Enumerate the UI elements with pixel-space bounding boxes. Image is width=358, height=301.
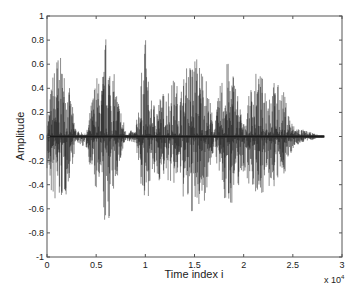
y-tick-label: 0: [39, 132, 44, 142]
y-tick-label: 0.6: [31, 59, 44, 69]
x-tick-label: 0.5: [90, 260, 103, 270]
x-tick-label: 1: [143, 260, 148, 270]
y-tick-label: -0.6: [28, 204, 44, 214]
y-tick-label: 0.4: [31, 83, 44, 93]
x-multiplier: x 104: [324, 274, 345, 285]
y-tick-label: -0.8: [28, 228, 44, 238]
waveform-series: [47, 39, 324, 219]
y-tick-label: -0.2: [28, 156, 44, 166]
y-tick-label: 0.8: [31, 35, 44, 45]
x-tick-label: 2: [241, 260, 246, 270]
x-axis-label: Time index i: [165, 268, 224, 280]
y-tick-label: -1: [36, 252, 44, 262]
y-tick-label: -0.4: [28, 180, 44, 190]
y-tick-label: 1: [39, 11, 44, 21]
x-tick-label: 2.5: [287, 260, 300, 270]
waveform-chart: 00.511.522.53 -1-0.8-0.6-0.4-0.200.20.40…: [0, 0, 358, 301]
x-tick-label: 3: [339, 260, 344, 270]
y-tick-label: 0.2: [31, 107, 44, 117]
y-axis-label: Amplitude: [14, 112, 26, 161]
x-tick-label: 0: [44, 260, 49, 270]
